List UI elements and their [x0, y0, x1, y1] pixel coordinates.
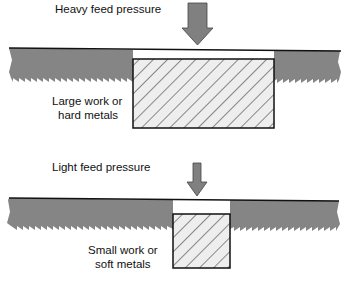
- light-pressure-panel: Light feed pressure Small work or soft m…: [7, 161, 340, 270]
- large-work-label-line2: hard metals: [58, 109, 118, 121]
- heavy-pressure-label: Heavy feed pressure: [55, 3, 161, 15]
- saw-blade-left: [7, 198, 173, 230]
- saw-blade-right: [230, 200, 340, 231]
- down-arrow-icon: [187, 163, 207, 196]
- heavy-pressure-panel: Heavy feed pressure Large work or hard m…: [9, 3, 341, 128]
- saw-blade-right: [274, 50, 341, 83]
- light-pressure-label: Light feed pressure: [52, 161, 150, 173]
- small-work-label-line2: soft metals: [95, 258, 151, 270]
- small-workpiece: [173, 214, 230, 268]
- saw-blade-left: [9, 48, 133, 82]
- large-workpiece: [133, 59, 274, 128]
- small-work-label-line1: Small work or: [88, 244, 158, 256]
- down-arrow-icon: [182, 3, 213, 45]
- large-work-label-line1: Large work or: [52, 95, 122, 107]
- feed-pressure-diagram: Heavy feed pressure Large work or hard m…: [0, 0, 345, 283]
